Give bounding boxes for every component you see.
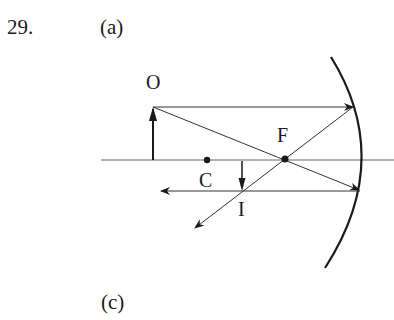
incident-ray-through-focus (153, 107, 359, 190)
ray-diagram (0, 0, 394, 320)
label-image: I (238, 199, 245, 219)
object-arrowhead (149, 107, 157, 121)
label-center-of-curvature: C (199, 170, 212, 190)
focal-point-dot (282, 156, 289, 163)
reflected-ray-through-focus (195, 107, 353, 228)
image-arrowhead (239, 178, 246, 191)
label-object: O (146, 72, 160, 92)
concave-mirror (325, 57, 362, 268)
center-of-curvature-dot (204, 157, 210, 163)
label-focal-point: F (277, 125, 288, 145)
